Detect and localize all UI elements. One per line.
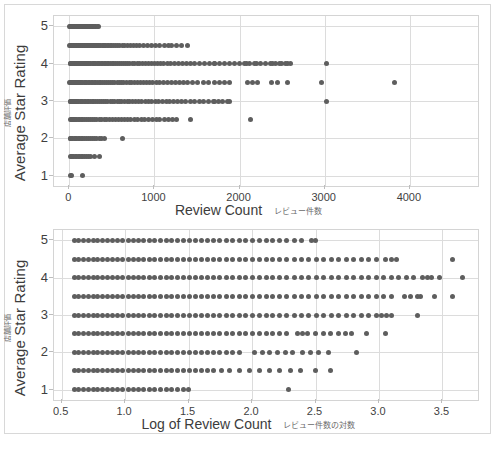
data-point xyxy=(250,294,255,299)
data-point xyxy=(175,313,180,318)
x-axis-tick-mark xyxy=(239,185,240,189)
data-point xyxy=(324,61,329,66)
data-point xyxy=(141,368,146,373)
data-point xyxy=(263,61,268,66)
data-point xyxy=(147,294,152,299)
data-point xyxy=(217,294,222,299)
data-point xyxy=(211,275,216,280)
data-point xyxy=(205,331,210,336)
data-point xyxy=(283,350,288,355)
data-point xyxy=(120,136,125,141)
data-point xyxy=(169,257,174,262)
data-point xyxy=(299,257,304,262)
data-point xyxy=(199,368,204,373)
data-point xyxy=(269,80,274,85)
data-point xyxy=(205,275,210,280)
data-point xyxy=(147,350,152,355)
data-point xyxy=(205,368,210,373)
data-point xyxy=(460,275,465,280)
data-point xyxy=(351,275,356,280)
data-point xyxy=(230,350,235,355)
y-axis-tick-label: 3 xyxy=(5,307,53,322)
data-point xyxy=(329,313,334,318)
data-point xyxy=(299,238,304,243)
data-point xyxy=(158,275,163,280)
x-axis-title-jp-top: レビュー件数 xyxy=(274,207,322,216)
data-point xyxy=(199,238,204,243)
page-bottom-caption xyxy=(0,436,496,448)
data-point xyxy=(292,313,297,318)
data-point xyxy=(120,313,125,318)
data-point xyxy=(187,313,192,318)
data-point xyxy=(126,257,131,262)
data-point xyxy=(164,368,169,373)
data-point xyxy=(126,294,131,299)
data-point xyxy=(211,350,216,355)
data-point xyxy=(389,275,394,280)
data-point xyxy=(319,80,324,85)
data-point xyxy=(205,294,210,299)
data-point xyxy=(243,313,248,318)
data-point xyxy=(227,99,232,104)
data-point xyxy=(193,238,198,243)
x-axis-tick-mark xyxy=(251,399,252,403)
y-axis-tick-label: 4 xyxy=(5,269,53,284)
data-point xyxy=(366,275,371,280)
data-point xyxy=(314,294,319,299)
data-point xyxy=(264,257,269,262)
data-point xyxy=(250,257,255,262)
data-point xyxy=(351,294,356,299)
data-point xyxy=(136,313,141,318)
data-point xyxy=(314,313,319,318)
data-point xyxy=(250,238,255,243)
data-point xyxy=(217,313,222,318)
x-axis-title-en-top: Review Count xyxy=(175,202,262,218)
x-axis-title-en-bottom: Log of Review Count xyxy=(142,416,272,432)
data-point xyxy=(364,331,369,336)
data-point xyxy=(205,257,210,262)
data-point xyxy=(175,331,180,336)
data-point xyxy=(179,43,184,48)
data-point xyxy=(381,294,386,299)
data-point xyxy=(164,275,169,280)
x-axis-tick-mark xyxy=(409,185,410,189)
data-point xyxy=(450,294,455,299)
data-point xyxy=(201,80,206,85)
data-point xyxy=(420,275,425,280)
data-point xyxy=(211,313,216,318)
data-point xyxy=(175,387,180,392)
data-point xyxy=(366,294,371,299)
data-point xyxy=(147,368,152,373)
data-point xyxy=(336,275,341,280)
data-point xyxy=(217,331,222,336)
y-axis-tick-mark xyxy=(49,239,53,240)
data-point xyxy=(217,257,222,262)
y-axis-tick-label: 3 xyxy=(5,93,53,108)
data-point xyxy=(306,275,311,280)
data-point xyxy=(306,313,311,318)
data-point xyxy=(174,43,179,48)
data-point xyxy=(164,331,169,336)
data-point xyxy=(321,294,326,299)
data-point xyxy=(169,238,174,243)
data-point xyxy=(292,238,297,243)
data-point xyxy=(181,350,186,355)
data-point xyxy=(321,275,326,280)
y-axis-tick-mark xyxy=(49,351,53,352)
data-point xyxy=(383,331,388,336)
data-point xyxy=(359,275,364,280)
data-point xyxy=(199,350,204,355)
data-point xyxy=(396,275,401,280)
data-point xyxy=(374,313,379,318)
data-point xyxy=(292,294,297,299)
data-point xyxy=(193,350,198,355)
data-point xyxy=(250,313,255,318)
data-point xyxy=(211,238,216,243)
data-point xyxy=(131,368,136,373)
data-point xyxy=(237,257,242,262)
data-point xyxy=(175,350,180,355)
data-point xyxy=(243,331,248,336)
data-point xyxy=(164,238,169,243)
y-axis-tick-label: 4 xyxy=(5,55,53,70)
data-point xyxy=(169,368,174,373)
